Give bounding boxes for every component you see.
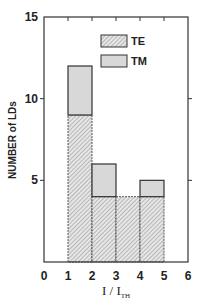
legend-label-te: TE <box>131 35 145 47</box>
histogram-chart: 012345651015 TE TM NUMBER of LDs I / ITH <box>0 0 200 308</box>
x-tick-label: 0 <box>41 269 48 283</box>
x-tick-label: 2 <box>89 269 96 283</box>
bar-tm-1-2 <box>68 66 92 115</box>
bar-te-3-4 <box>116 197 140 262</box>
legend-swatch-tm <box>101 55 127 67</box>
bar-tm-2-3 <box>92 164 116 197</box>
bars-group <box>68 66 164 262</box>
bar-te-2-3 <box>92 197 116 262</box>
x-tick-label: 3 <box>113 269 120 283</box>
legend-swatch-te <box>101 35 127 47</box>
y-axis-label: NUMBER of LDs <box>7 101 18 179</box>
x-tick-label: 4 <box>137 269 144 283</box>
bar-tm-4-5 <box>140 180 164 196</box>
y-tick-label: 5 <box>31 173 38 187</box>
bar-te-1-2 <box>68 115 92 262</box>
y-tick-label: 10 <box>25 92 39 106</box>
bar-te-4-5 <box>140 197 164 262</box>
y-tick-label: 15 <box>25 10 39 24</box>
x-axis-label: I / ITH <box>102 283 130 300</box>
legend: TE TM <box>101 35 147 67</box>
x-tick-label: 5 <box>161 269 168 283</box>
x-tick-label: 6 <box>185 269 192 283</box>
legend-label-tm: TM <box>131 55 147 67</box>
x-tick-label: 1 <box>65 269 72 283</box>
